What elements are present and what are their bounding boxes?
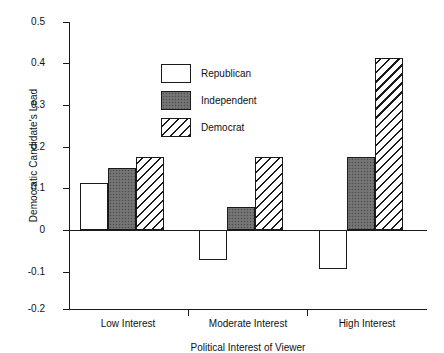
legend-swatch-republican-icon xyxy=(161,64,191,83)
x-tick-label-high: High Interest xyxy=(302,318,432,329)
y-tick-label: -0.1 xyxy=(5,267,45,277)
bar-moderate-republican xyxy=(199,230,227,260)
y-tick-label: 0.5 xyxy=(5,17,45,27)
legend-swatch-independent-icon xyxy=(161,91,191,110)
x-tick-mark xyxy=(188,310,189,316)
legend-item-democrat: Democrat xyxy=(161,118,321,140)
bar-moderate-democrat xyxy=(255,157,283,230)
x-tick-label-moderate: Moderate Interest xyxy=(183,318,313,329)
bar-chart-figure: Democratic Candidate's Lead 0.5 0.4 0.3 … xyxy=(0,0,444,353)
y-tick-mark xyxy=(63,309,69,310)
legend-label-republican: Republican xyxy=(201,68,251,79)
legend-swatch-democrat-icon xyxy=(161,118,191,137)
bar-moderate-independent xyxy=(227,207,255,230)
y-tick-label: 0.4 xyxy=(5,58,45,68)
zero-reference-line xyxy=(69,230,427,231)
y-tick-mark xyxy=(63,147,69,148)
bar-high-republican xyxy=(319,230,347,269)
y-tick-label: -0.2 xyxy=(5,304,45,314)
chart-legend: Republican Independent Democrat xyxy=(161,64,321,145)
x-axis-title: Political Interest of Viewer xyxy=(69,342,427,353)
y-tick-label: 0.3 xyxy=(5,100,45,110)
y-tick-mark xyxy=(63,188,69,189)
legend-label-independent: Independent xyxy=(201,95,257,106)
bar-low-republican xyxy=(80,183,108,230)
bar-low-independent xyxy=(108,168,136,231)
bar-high-independent xyxy=(347,157,375,230)
x-axis-line xyxy=(69,309,427,310)
y-tick-label: 0 xyxy=(5,225,45,235)
legend-item-independent: Independent xyxy=(161,91,321,113)
plot-area: 0.5 0.4 0.3 0.2 0.1 0 -0.1 -0.2 Low Inte… xyxy=(69,22,427,310)
y-tick-mark xyxy=(63,272,69,273)
x-tick-mark xyxy=(307,310,308,316)
y-tick-mark xyxy=(63,63,69,64)
legend-label-democrat: Democrat xyxy=(201,122,244,133)
y-tick-mark xyxy=(63,230,69,231)
y-tick-mark xyxy=(63,22,69,23)
y-tick-label: 0.2 xyxy=(5,142,45,152)
legend-item-republican: Republican xyxy=(161,64,321,86)
bar-high-democrat xyxy=(375,58,403,230)
y-tick-label: 0.1 xyxy=(5,183,45,193)
x-tick-label-low: Low Interest xyxy=(63,318,193,329)
bar-low-democrat xyxy=(136,157,164,230)
y-tick-mark xyxy=(63,105,69,106)
y-axis-line xyxy=(69,22,70,310)
